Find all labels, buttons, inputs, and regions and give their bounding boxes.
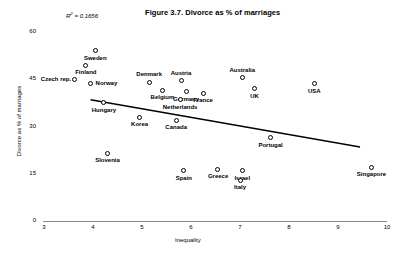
point-label: Sweden xyxy=(84,55,107,61)
point-label: Canada xyxy=(165,124,187,130)
chart-title: Figure 3.7. Divorce as % of marriages xyxy=(145,8,315,17)
scatter-point[interactable] xyxy=(93,48,98,53)
point-label: Norway xyxy=(96,80,118,86)
scatter-point[interactable] xyxy=(174,118,179,123)
scatter-point[interactable] xyxy=(240,75,245,80)
x-tick-label: 4 xyxy=(83,224,103,230)
point-label: Greece xyxy=(208,173,228,179)
point-label: Italy xyxy=(234,184,246,190)
y-axis-label: Divorce as % of marriages xyxy=(16,66,22,176)
x-tick-label: 7 xyxy=(230,224,250,230)
scatter-point[interactable] xyxy=(137,115,142,120)
r-squared-annotation: R2 = 0.1656 xyxy=(66,11,98,19)
scatter-point[interactable] xyxy=(178,97,183,102)
point-label: Finland xyxy=(75,69,96,75)
point-label: Belgium xyxy=(151,94,175,100)
scatter-point[interactable] xyxy=(179,78,184,83)
scatter-point[interactable] xyxy=(72,77,77,82)
scatter-point[interactable] xyxy=(240,168,245,173)
y-tick-label: 0 xyxy=(14,217,36,223)
x-tick-label: 5 xyxy=(132,224,152,230)
scatter-point[interactable] xyxy=(101,100,106,105)
point-label: UK xyxy=(250,93,259,99)
figure-container: Figure 3.7. Divorce as % of marriages R2… xyxy=(0,0,403,263)
x-tick-label: 9 xyxy=(328,224,348,230)
y-tick-label: 15 xyxy=(14,170,36,176)
x-tick-label: 8 xyxy=(279,224,299,230)
point-label: Korea xyxy=(131,121,148,127)
scatter-point[interactable] xyxy=(268,135,273,140)
scatter-point[interactable] xyxy=(184,89,189,94)
r-squared-value: = 0.1656 xyxy=(73,13,98,19)
y-tick-label: 30 xyxy=(14,123,36,129)
x-tick-label: 10 xyxy=(377,224,397,230)
scatter-point[interactable] xyxy=(369,165,374,170)
point-label: Austria xyxy=(171,70,192,76)
scatter-point[interactable] xyxy=(252,86,257,91)
point-label: Denmark xyxy=(136,71,162,77)
point-label: Netherlands xyxy=(163,104,198,110)
point-label: Singapore xyxy=(357,171,386,177)
point-label: Spain xyxy=(176,175,192,181)
scatter-point[interactable] xyxy=(312,81,317,86)
scatter-point[interactable] xyxy=(83,63,88,68)
x-axis-line xyxy=(43,221,387,222)
scatter-point[interactable] xyxy=(147,80,152,85)
scatter-point[interactable] xyxy=(88,81,93,86)
scatter-point[interactable] xyxy=(105,151,110,156)
x-tick-label: 6 xyxy=(181,224,201,230)
scatter-point[interactable] xyxy=(201,91,206,96)
point-label: France xyxy=(193,97,213,103)
scatter-point[interactable] xyxy=(215,167,220,172)
y-tick-label: 45 xyxy=(14,75,36,81)
scatter-point[interactable] xyxy=(181,168,186,173)
scatter-point[interactable] xyxy=(160,88,165,93)
y-tick-label: 60 xyxy=(14,28,36,34)
x-tick-label: 3 xyxy=(34,224,54,230)
point-label: Hungary xyxy=(92,107,116,113)
scatter-point[interactable] xyxy=(238,178,243,183)
point-label: USA xyxy=(308,88,321,94)
point-label: Australia xyxy=(229,67,255,73)
point-label: Slovenia xyxy=(95,157,120,163)
point-label: Portugal xyxy=(258,142,282,148)
x-axis-label: Inequality xyxy=(175,237,201,243)
point-label: Czech rep. xyxy=(41,76,71,82)
